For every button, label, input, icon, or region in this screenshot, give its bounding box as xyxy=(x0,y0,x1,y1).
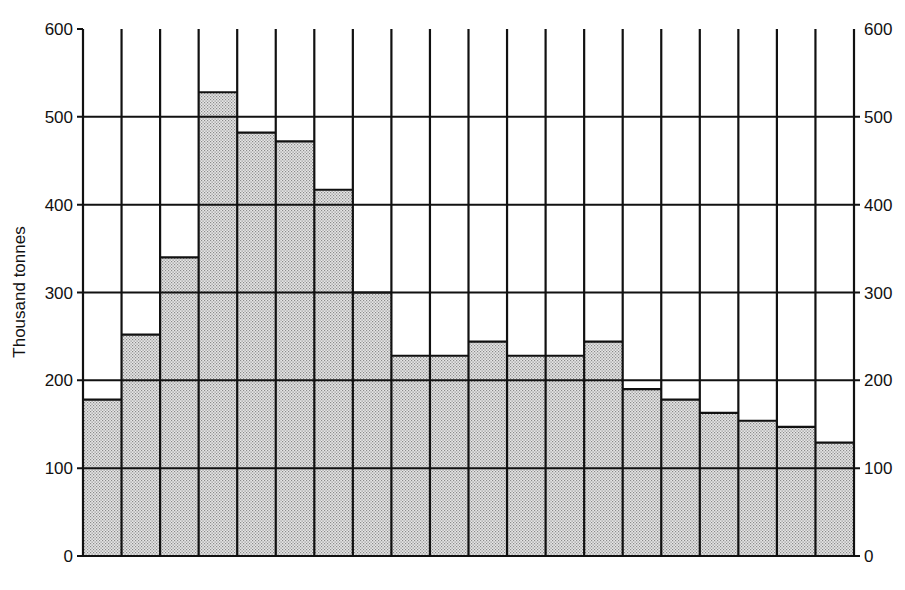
y-tick-label-right: 100 xyxy=(864,459,892,478)
y-tick-label-left: 300 xyxy=(45,284,73,303)
bar xyxy=(469,342,508,556)
y-tick-label-left: 0 xyxy=(64,547,73,566)
bar xyxy=(700,413,739,556)
bar xyxy=(122,335,161,556)
bar xyxy=(314,190,353,556)
left-y-axis: 0100200300400500600 xyxy=(45,20,73,566)
y-tick-label-right: 500 xyxy=(864,108,892,127)
bar-chart: 0100200300400500600 0100200300400500600 … xyxy=(0,0,905,590)
bar xyxy=(237,133,276,556)
bar xyxy=(584,342,623,556)
y-axis-title: Thousand tonnes xyxy=(10,226,29,357)
bar xyxy=(83,400,122,556)
bar xyxy=(353,293,392,557)
bar xyxy=(623,389,662,556)
bar xyxy=(777,427,816,556)
vertical-dividers xyxy=(83,29,854,556)
bar xyxy=(738,421,777,556)
y-tick-label-right: 200 xyxy=(864,371,892,390)
bar xyxy=(391,356,430,556)
y-tick-label-right: 400 xyxy=(864,196,892,215)
bar xyxy=(430,356,469,556)
bar xyxy=(507,356,546,556)
y-tick-label-right: 600 xyxy=(864,20,892,39)
y-tick-label-right: 0 xyxy=(864,547,873,566)
bar xyxy=(815,443,854,556)
y-tick-label-left: 500 xyxy=(45,108,73,127)
y-tick-label-left: 600 xyxy=(45,20,73,39)
right-y-axis: 0100200300400500600 xyxy=(864,20,892,566)
y-tick-label-left: 200 xyxy=(45,371,73,390)
y-tick-label-right: 300 xyxy=(864,284,892,303)
bar xyxy=(160,257,199,556)
y-tick-label-left: 400 xyxy=(45,196,73,215)
y-tick-label-left: 100 xyxy=(45,459,73,478)
bar xyxy=(661,400,700,556)
bar xyxy=(199,92,238,556)
bar xyxy=(546,356,585,556)
bar xyxy=(276,141,315,556)
